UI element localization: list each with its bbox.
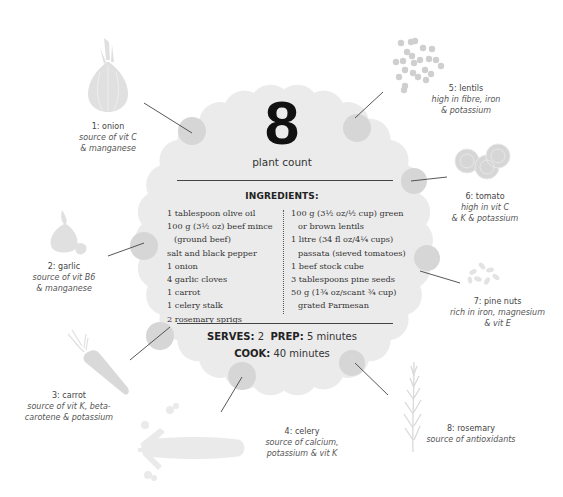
plant-desc-line: source of vit C xyxy=(58,132,158,143)
prep-value: 5 minutes xyxy=(307,331,357,342)
cook-line: COOK: 40 minutes xyxy=(190,348,374,359)
callout-pine-nuts: 7: pine nuts rich in iron, magnesium& vi… xyxy=(440,296,555,329)
ingredient-item: 4 garlic cloves xyxy=(167,273,273,286)
callout-dot-celery xyxy=(228,362,256,390)
ingredients-title: INGREDIENTS: xyxy=(207,191,357,201)
callout-dot-lentils xyxy=(343,114,371,142)
plant-name: 3: carrot xyxy=(14,390,124,401)
ingredient-item: grated Parmesan xyxy=(291,299,406,312)
plant-desc-line: & potassium xyxy=(416,105,516,116)
ingredients-left-column: 1 tablespoon olive oil100 g (3½ oz) beef… xyxy=(167,207,273,326)
callout-dot-pine-nuts xyxy=(414,245,440,271)
plant-name: 7: pine nuts xyxy=(440,296,555,307)
plant-desc: source of calcium,potassium & vit K xyxy=(252,437,352,459)
callout-garlic: 2: garlic source of vit B6& manganese xyxy=(14,261,114,294)
plant-name: 2: garlic xyxy=(14,261,114,272)
callout-lentils: 5: lentils high in fibre, iron& potassiu… xyxy=(416,83,516,116)
plant-desc: source of vit C& manganese xyxy=(58,132,158,154)
plant-name: 5: lentils xyxy=(416,83,516,94)
plant-desc: high in vit C& K & potassium xyxy=(435,202,535,224)
plant-desc-line: & manganese xyxy=(14,283,114,294)
ingredient-item: 1 litre (34 fl oz/4¼ cups) xyxy=(291,233,406,246)
ingredient-item: 1 beef stock cube xyxy=(291,260,406,273)
ingredient-item: 1 tablespoon olive oil xyxy=(167,207,273,220)
tomato-icon xyxy=(455,144,510,179)
plant-desc-line: source of vit B6 xyxy=(14,272,114,283)
cook-value: 40 minutes xyxy=(273,348,329,359)
plant-desc: source of antioxidants xyxy=(416,434,526,445)
serves-prep-line: SERVES: 2 PREP: 5 minutes xyxy=(190,331,374,342)
callout-onion: 1: onion source of vit C& manganese xyxy=(58,121,158,154)
plant-desc: rich in iron, magnesium& vit E xyxy=(440,307,555,329)
column-divider xyxy=(283,210,284,314)
plant-count-number: 8 xyxy=(232,90,332,156)
serves-label: SERVES: xyxy=(207,331,255,342)
ingredient-item: 3 tablespoons pine seeds xyxy=(291,273,406,286)
cook-label: COOK: xyxy=(234,348,270,359)
plant-desc-line: high in fibre, iron xyxy=(416,94,516,105)
celery-icon xyxy=(138,403,245,481)
callout-tomato: 6: tomato high in vit C& K & potassium xyxy=(435,191,535,224)
callout-carrot: 3: carrot source of vit K, beta-carotene… xyxy=(14,390,124,423)
leader-line-rosemary xyxy=(355,363,388,395)
plant-desc-line: high in vit C xyxy=(435,202,535,213)
plant-desc-line: & K & potassium xyxy=(435,213,535,224)
ingredient-item: passata (sieved tomatoes) xyxy=(291,247,406,260)
leader-line-lentils xyxy=(355,92,383,118)
plant-name: 1: onion xyxy=(58,121,158,132)
plant-desc-line: & manganese xyxy=(58,143,158,154)
ingredient-item: 100 g (3½ oz) beef mince xyxy=(167,220,273,233)
plant-desc-line: source of calcium, xyxy=(252,437,352,448)
ingredient-item: 1 celery stalk xyxy=(167,299,273,312)
ingredient-item: 1 carrot xyxy=(167,286,273,299)
prep-label: PREP: xyxy=(271,331,304,342)
plant-desc-line: source of vit K, beta- xyxy=(14,401,124,412)
carrot-icon xyxy=(68,330,129,395)
plant-count-label: plant count xyxy=(207,156,357,168)
callout-celery: 4: celery source of calcium,potassium & … xyxy=(252,426,352,459)
plant-desc-line: rich in iron, magnesium xyxy=(440,307,555,318)
ingredient-item: (ground beef) xyxy=(167,233,273,246)
ingredient-item: salt and black pepper xyxy=(167,247,273,260)
ingredient-item: or brown lentils xyxy=(291,220,406,233)
callout-rosemary: 8: rosemary source of antioxidants xyxy=(416,423,526,445)
plant-name: 8: rosemary xyxy=(416,423,526,434)
bottom-divider xyxy=(177,323,393,324)
plant-desc: source of vit B6& manganese xyxy=(14,272,114,294)
callout-dot-carrot xyxy=(146,322,174,350)
plant-name: 4: celery xyxy=(252,426,352,437)
ingredient-item: 1 onion xyxy=(167,260,273,273)
plant-desc: source of vit K, beta-carotene & potassi… xyxy=(14,401,124,423)
plant-desc-line: potassium & vit K xyxy=(252,448,352,459)
onion-icon xyxy=(88,38,128,112)
ingredient-item: 50 g (1¾ oz/scant ¾ cup) xyxy=(291,286,406,299)
top-divider xyxy=(177,180,393,181)
plant-name: 6: tomato xyxy=(435,191,535,202)
plant-desc-line: & vit E xyxy=(440,318,555,329)
plant-desc-line: source of antioxidants xyxy=(416,434,526,445)
callout-dot-garlic xyxy=(130,232,158,260)
ingredients-right-column: 100 g (3½ oz/½ cup) greenor brown lentil… xyxy=(291,207,406,313)
garlic-icon xyxy=(51,210,87,254)
pine-nuts-icon xyxy=(467,261,500,285)
callout-dot-onion xyxy=(178,117,206,145)
plant-desc: high in fibre, iron& potassium xyxy=(416,94,516,116)
serves-value: 2 xyxy=(258,331,264,342)
ingredient-item: 100 g (3½ oz/½ cup) green xyxy=(291,207,406,220)
plant-desc-line: carotene & potassium xyxy=(14,412,124,423)
